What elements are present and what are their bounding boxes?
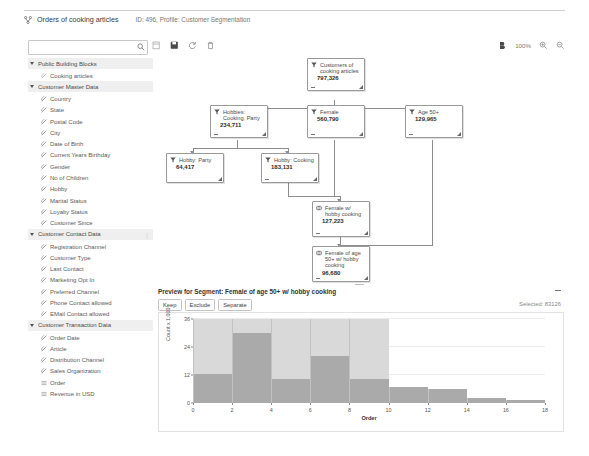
page-title: Orders of cooking articles [37, 15, 119, 24]
collapse-node-icon[interactable] [311, 134, 315, 135]
histogram-chart[interactable]: Count x 1,000 Order 01224360246810121416… [158, 312, 564, 432]
chart-bar-selected[interactable] [506, 400, 545, 404]
sidebar-item-city[interactable]: City [28, 127, 153, 138]
chart-x-tick-mark [545, 403, 546, 405]
segment-node-cooking[interactable]: Hobby: Cooking183,131 [261, 153, 319, 183]
chevron-down-icon[interactable] [30, 85, 34, 88]
sidebar-item-order-date[interactable]: Order Date [28, 332, 153, 343]
save-icon[interactable] [170, 41, 179, 50]
chart-x-tick-mark [232, 403, 233, 405]
sidebar-item-preferred-channel[interactable]: Preferred Channel [28, 286, 153, 297]
panel-resize-handle[interactable] [355, 284, 364, 285]
collapse-node-icon[interactable] [265, 179, 269, 180]
sidebar-group-customer-transaction-data[interactable]: Customer Transaction Data [28, 320, 153, 331]
sidebar-item-country[interactable]: Country [28, 93, 153, 104]
segment-node-root[interactable]: Customers of cooking articles797,326 [307, 58, 365, 91]
chart-bar-selected[interactable] [467, 398, 506, 403]
chart-x-tick: 2 [231, 407, 234, 413]
separate-button[interactable]: Separate [218, 299, 252, 311]
segment-node-party[interactable]: Hobby: Party64,417 [166, 153, 224, 183]
sidebar-item-registration-channel[interactable]: Registration Channel [28, 241, 153, 252]
chart-bar-selected[interactable] [428, 389, 467, 403]
zoom-in-icon[interactable] [539, 41, 548, 50]
sidebar-item-label: Last Contact [50, 266, 84, 272]
collapse-icon[interactable] [555, 290, 561, 291]
sidebar-item-label: Order Date [50, 335, 80, 341]
sidebar-item-gender[interactable]: Gender [28, 161, 153, 172]
segment-node-hobbies[interactable]: Hobbies: Cooking, Party234,711 [210, 105, 268, 138]
resize-node-handle[interactable] [364, 276, 368, 280]
trash-icon[interactable] [206, 41, 215, 50]
sidebar-item-no-of-children[interactable]: No of Children [28, 172, 153, 183]
chart-bar-selected[interactable] [349, 379, 388, 404]
copy-icon[interactable] [152, 41, 161, 50]
resize-node-handle[interactable] [359, 132, 363, 136]
chart-x-tick: 8 [348, 407, 351, 413]
sidebar-item-loyalty-status[interactable]: Loyalty Status [28, 206, 153, 217]
attribute-icon [41, 119, 47, 125]
connector [288, 182, 289, 196]
attribute-sidebar[interactable]: Public Building BlocksCooking articlesCu… [28, 58, 153, 428]
sidebar-item-postal-code[interactable]: Postal Code [28, 116, 153, 127]
sidebar-group-customer-contact-data[interactable]: Customer Contact Data⋮ [28, 229, 153, 240]
sidebar-item-customer-since[interactable]: Customer Since [28, 218, 153, 229]
sidebar-item-last-contact[interactable]: Last Contact [28, 263, 153, 274]
connector [237, 140, 238, 148]
chevron-down-icon[interactable] [30, 233, 34, 236]
search-icon[interactable] [137, 43, 145, 51]
sidebar-item-state[interactable]: State [28, 105, 153, 116]
sidebar-group-public-building-blocks[interactable]: Public Building Blocks [28, 58, 153, 69]
sidebar-item-article[interactable]: Article [28, 343, 153, 354]
exclude-button[interactable]: Exclude [185, 299, 216, 311]
group-overflow-icon[interactable]: ⋮ [144, 232, 150, 239]
resize-node-handle[interactable] [313, 177, 317, 181]
chart-bar-selected[interactable] [389, 387, 428, 403]
sidebar-group-customer-master-data[interactable]: Customer Master Data [28, 81, 153, 92]
resize-node-handle[interactable] [218, 177, 222, 181]
resize-node-handle[interactable] [364, 231, 368, 235]
sidebar-item-sales-organization[interactable]: Sales Organization [28, 366, 153, 377]
sidebar-item-marketing-opt-in[interactable]: Marketing Opt In [28, 275, 153, 286]
fit-to-screen-icon[interactable] [498, 41, 507, 50]
chart-x-axis-label: Order [193, 415, 545, 421]
resize-node-handle[interactable] [359, 85, 363, 89]
collapse-node-icon[interactable] [214, 134, 218, 135]
collapse-node-icon[interactable] [316, 278, 320, 279]
collapse-node-icon[interactable] [409, 134, 413, 135]
sidebar-item-order[interactable]: Order [28, 377, 153, 388]
chevron-down-icon[interactable] [30, 62, 34, 65]
chart-bar-selected[interactable] [271, 379, 310, 404]
attribute-icon [41, 335, 47, 341]
zoom-out-icon[interactable] [556, 41, 565, 50]
sidebar-item-phone-contact-allowed[interactable]: Phone Contact allowed [28, 297, 153, 308]
sidebar-item-customer-type[interactable]: Customer Type [28, 252, 153, 263]
sidebar-item-current-years-birthday[interactable]: Current Years Birthday [28, 150, 153, 161]
preview-panel: Preview for Segment: Female of age 50+ w… [155, 288, 565, 433]
search-box[interactable] [28, 40, 148, 55]
segment-node-female[interactable]: Female560,790 [307, 105, 365, 138]
measure-icon [41, 391, 47, 397]
sidebar-item-revenue-in-usd[interactable]: Revenue in USD [28, 388, 153, 399]
chart-x-tick: 6 [309, 407, 312, 413]
segment-node-female-50-cooking[interactable]: Female of age 50+ w/ hobby cooking96,680 [312, 246, 370, 282]
search-input[interactable] [31, 42, 135, 55]
sidebar-item-hobby[interactable]: Hobby [28, 184, 153, 195]
resize-node-handle[interactable] [262, 132, 266, 136]
sidebar-item-date-of-birth[interactable]: Date of Birth [28, 138, 153, 149]
chart-bar-selected[interactable] [232, 333, 271, 403]
chevron-down-icon[interactable] [30, 324, 34, 327]
chart-y-tick: 12 [184, 372, 190, 378]
chart-bar-selected[interactable] [193, 374, 232, 403]
collapse-node-icon[interactable] [316, 233, 320, 234]
sidebar-item-email-contact-allowed[interactable]: EMail Contact allowed [28, 309, 153, 320]
sidebar-item-marital-status[interactable]: Marital Status [28, 195, 153, 206]
segment-node-age50[interactable]: Age 50+129,965 [405, 105, 463, 138]
chart-bar-selected[interactable] [310, 356, 349, 403]
refresh-icon[interactable] [188, 41, 197, 50]
collapse-node-icon[interactable] [311, 87, 315, 88]
segmentation-canvas[interactable]: Customers of cooking articles797,326 Hob… [155, 58, 565, 286]
resize-node-handle[interactable] [457, 132, 461, 136]
sidebar-item-cooking-articles[interactable]: Cooking articles [28, 70, 153, 81]
sidebar-item-distribution-channel[interactable]: Distribution Channel [28, 355, 153, 366]
segment-node-female-cooking[interactable]: Female w/ hobby cooking127,223 [312, 201, 370, 237]
